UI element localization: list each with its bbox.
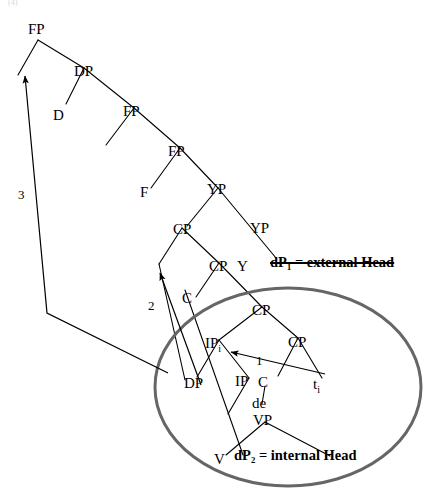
node-ip-i-text: IP [205,335,218,351]
node-fp-root: FP [28,22,45,37]
arrow-2 [160,273,201,385]
node-ip-i: IPi [205,336,221,351]
internal-head-annotation: dP₂ = internal Head [234,448,357,463]
arrow-1 [231,352,325,374]
node-dp-2: DP [184,376,203,391]
arrow-3 [25,76,168,373]
node-yp: YP [207,182,226,197]
node-ip: IP [235,374,248,389]
node-cp: CP [173,222,191,237]
node-y: Y [237,259,248,274]
external-head-annotation: dP₁ = external Head [270,255,394,270]
node-yp-2: YP [250,221,269,236]
node-dp: DP [74,64,93,79]
figure-number: (4) [8,0,17,7]
node-f: F [140,185,148,200]
node-ip-i-subscript: i [218,343,221,354]
node-c-2: C [258,375,268,390]
arrow-label-3: 3 [18,188,25,201]
node-t-i: ti [313,377,320,392]
node-t-i-subscript: i [317,384,320,395]
arrow-label-1: 1 [256,354,263,367]
tree-branches [18,40,330,456]
node-d: D [53,108,64,123]
node-fp-3: FP [168,144,185,159]
node-cp-4: CP [288,335,306,350]
spine-fp-fp [134,108,180,148]
node-c: C [182,291,192,306]
figure-canvas: (4) FP DP D FP FP F YP CP YP CP Y C CP I… [0,0,430,490]
node-cp-3: CP [252,303,270,318]
node-v: V [214,452,225,467]
node-cp-2: CP [209,259,227,274]
node-vp: VP [253,413,272,428]
tree-line-art [0,0,430,490]
node-de: de [252,396,266,411]
node-fp-2: FP [123,104,140,119]
arrow-label-2: 2 [148,299,155,312]
